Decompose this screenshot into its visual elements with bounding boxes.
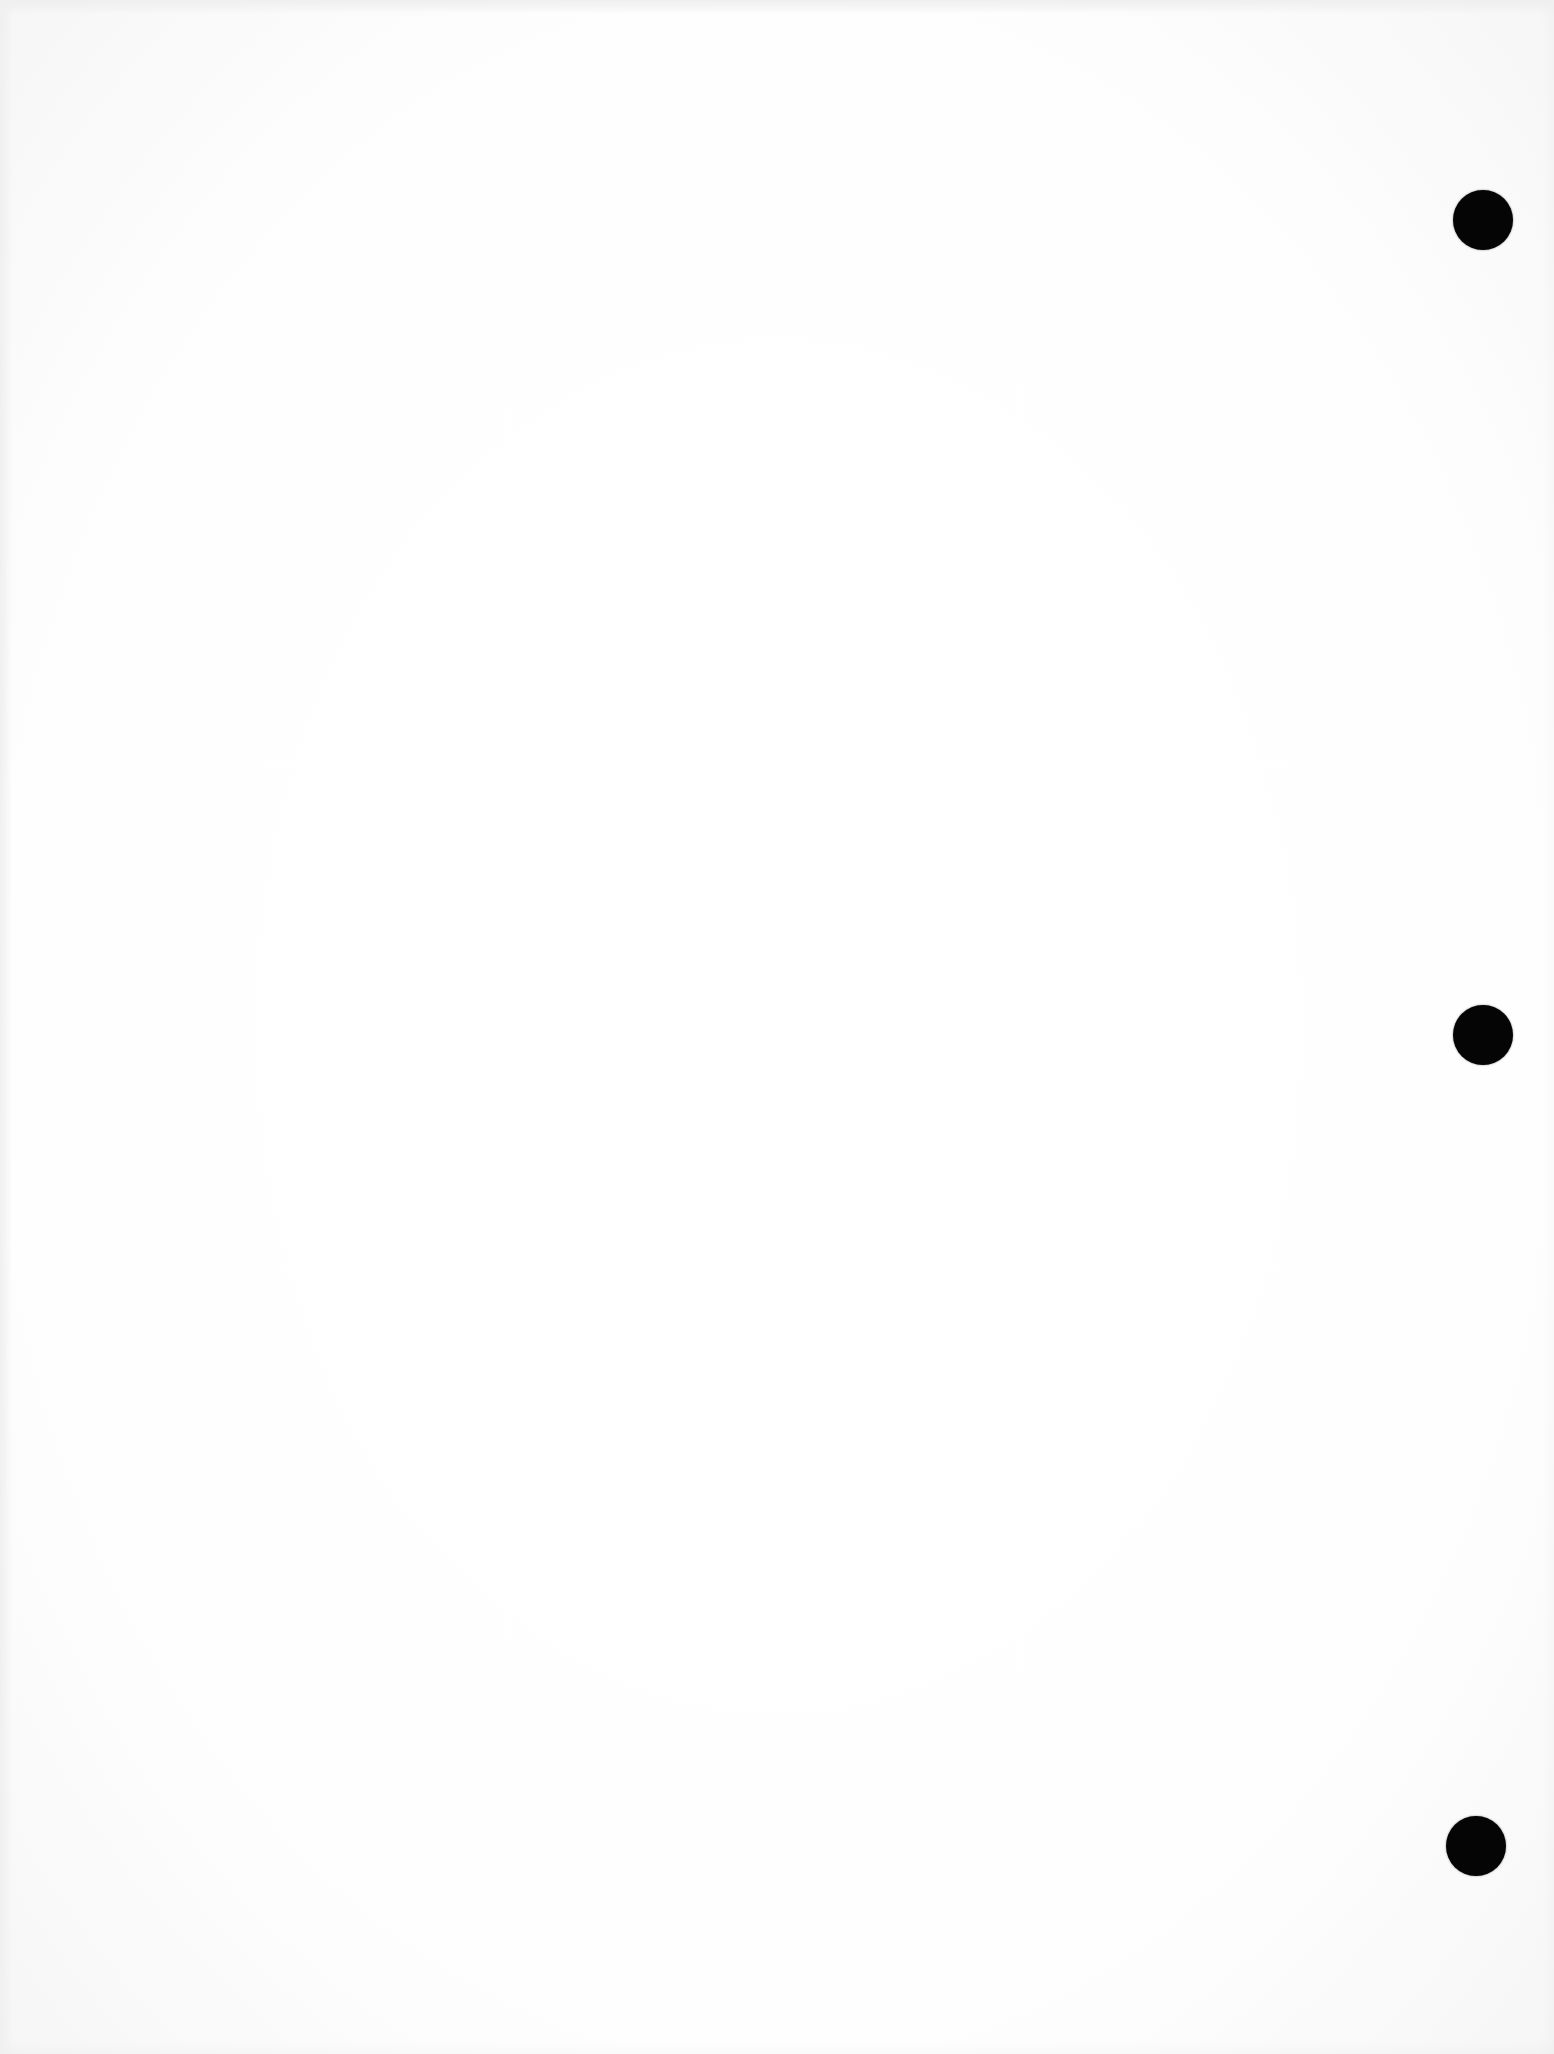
page-top-edge-shadow (0, 0, 1554, 14)
scanned-page (0, 0, 1554, 2054)
punch-hole-bottom (1446, 1816, 1506, 1876)
punch-hole-top (1453, 190, 1513, 250)
punch-hole-middle (1453, 1005, 1513, 1065)
page-left-edge-shadow (0, 0, 12, 2054)
